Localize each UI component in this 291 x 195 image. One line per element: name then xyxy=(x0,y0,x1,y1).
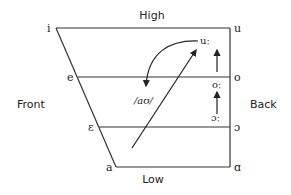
arrow-curve-to-au xyxy=(146,41,198,86)
vowel-u: u xyxy=(234,22,241,35)
vowel-chart: High Low Front Back i e ɛ a u o ɔ ɑ uː o… xyxy=(0,0,291,195)
vowel-o: o xyxy=(234,71,241,84)
vowel-open-e: ɛ xyxy=(88,121,94,134)
vowel-script-a: ɑ xyxy=(234,161,241,174)
vowel-e: e xyxy=(67,71,74,84)
vowel-i: i xyxy=(47,22,51,35)
label-long-o: oː xyxy=(212,79,221,90)
vowel-a: a xyxy=(106,161,113,174)
label-long-open-o: ɔː xyxy=(211,112,220,123)
label-front: Front xyxy=(17,98,46,111)
label-long-u: uː xyxy=(200,35,210,46)
label-low: Low xyxy=(142,173,164,186)
label-high: High xyxy=(139,9,164,22)
front-edge xyxy=(56,28,116,167)
label-diphthong: /aʊ/ xyxy=(133,95,155,106)
label-back: Back xyxy=(250,98,277,111)
vowel-open-o: ɔ xyxy=(234,121,240,134)
